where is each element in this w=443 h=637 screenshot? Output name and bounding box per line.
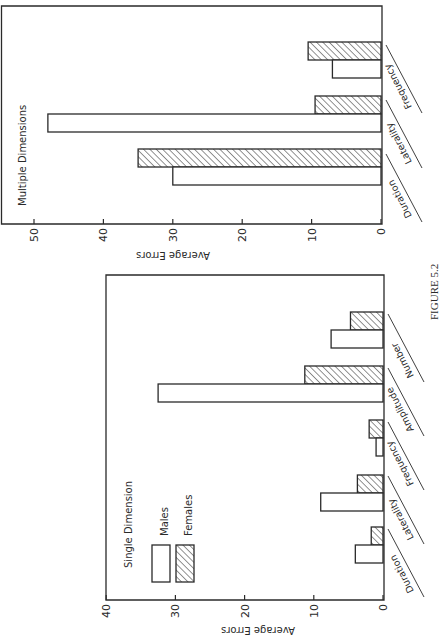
- bar-females: [305, 366, 383, 384]
- tick-label: 40: [100, 604, 113, 618]
- tick-label: 30: [169, 604, 182, 618]
- bar-females: [308, 42, 381, 60]
- figure: 01020304050Average ErrorsDurationLateral…: [0, 0, 443, 637]
- tick-label: 50: [28, 228, 41, 242]
- bar-males: [321, 493, 383, 511]
- legend-label-females: Females: [183, 495, 194, 536]
- bar-females: [138, 149, 381, 167]
- tick-label: 40: [97, 228, 110, 242]
- chart-canvas: 01020304050Average ErrorsDurationLateral…: [0, 0, 443, 637]
- chart-title: Multiple Dimensions: [17, 105, 28, 206]
- y-axis-label: Average Errors: [136, 250, 210, 261]
- tick-label: 0: [375, 228, 388, 235]
- bar-males: [48, 114, 381, 132]
- bar-females: [357, 475, 383, 493]
- legend-swatch-males: [152, 545, 170, 582]
- tick-label: 0: [377, 604, 390, 611]
- category-label: Frequency: [382, 62, 414, 111]
- multiple-dimensions-chart: 01020304050Average ErrorsDurationLateral…: [2, 6, 423, 261]
- tick-label: 20: [236, 228, 249, 242]
- legend-label-males: Males: [159, 507, 170, 536]
- bar-males: [332, 60, 381, 78]
- legend: MalesFemales: [152, 495, 194, 582]
- category-label: Number: [389, 341, 416, 380]
- bar-males: [158, 384, 383, 402]
- plot-frame: [106, 275, 384, 600]
- tick-label: 20: [239, 604, 252, 618]
- tick-label: 10: [306, 228, 319, 242]
- bar-females: [350, 312, 383, 330]
- y-axis-label: Average Errors: [221, 625, 295, 636]
- category-label: Amplitude: [384, 386, 416, 435]
- single-dimension-chart: 010203040Average ErrorsDurationLateralit…: [100, 275, 424, 636]
- chart-title: Single Dimension: [123, 481, 134, 568]
- bar-females: [369, 420, 383, 438]
- bar-males: [376, 438, 383, 456]
- bar-males: [331, 330, 383, 348]
- legend-swatch-females: [176, 545, 194, 582]
- tick-label: 10: [308, 604, 321, 618]
- bar-females: [315, 96, 381, 114]
- bar-females: [371, 527, 383, 545]
- tick-label: 30: [167, 228, 180, 242]
- bar-males: [355, 545, 383, 563]
- bar-males: [173, 167, 381, 185]
- figure-caption: FIGURE 5.2: [428, 264, 440, 320]
- category-label: Frequency: [384, 439, 416, 488]
